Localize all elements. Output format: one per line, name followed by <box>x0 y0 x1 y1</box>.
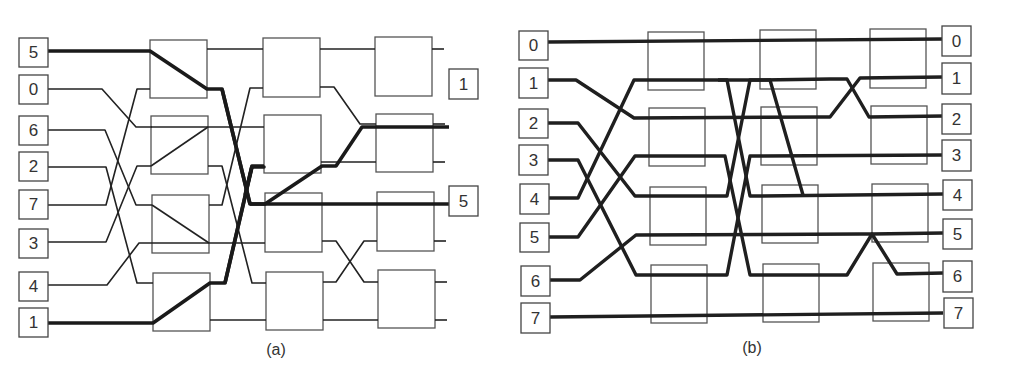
svg-text:6: 6 <box>953 267 962 286</box>
input-label-box: 3 <box>519 145 548 175</box>
input-label-box: 7 <box>521 303 550 333</box>
svg-text:7: 7 <box>29 195 38 214</box>
svg-text:5: 5 <box>530 228 539 247</box>
svg-text:4: 4 <box>530 190 539 209</box>
svg-text:5: 5 <box>459 192 468 211</box>
figure-a-inputs: 5 0 6 2 7 3 4 <box>19 38 48 337</box>
input-label-box: 5 <box>520 223 549 252</box>
svg-text:2: 2 <box>529 114 538 133</box>
switch-box <box>151 116 208 174</box>
output-label-box: 7 <box>944 298 973 328</box>
output-label-box: 1 <box>449 69 478 99</box>
svg-text:2: 2 <box>29 157 38 176</box>
switch-box <box>266 272 323 330</box>
output-label-box: 4 <box>943 180 972 210</box>
input-label-box: 4 <box>19 272 48 301</box>
input-label-box: 3 <box>19 229 48 258</box>
output-label-box: 3 <box>942 140 971 171</box>
output-label-box: 5 <box>943 219 972 249</box>
input-label-box: 1 <box>519 68 548 98</box>
figure-b-paths <box>548 39 943 317</box>
svg-text:1: 1 <box>529 74 538 93</box>
input-label-box: 2 <box>519 109 548 138</box>
svg-text:1: 1 <box>459 75 468 94</box>
figure-b-inputs: 0 1 2 3 4 5 6 <box>519 31 550 333</box>
svg-text:7: 7 <box>954 304 963 323</box>
figure-b-stage-3 <box>870 29 929 321</box>
svg-text:1: 1 <box>29 313 38 332</box>
svg-text:3: 3 <box>529 151 538 170</box>
svg-text:4: 4 <box>953 186 962 205</box>
input-label-box: 7 <box>19 190 48 219</box>
figure-a-outputs: 1 5 <box>449 69 478 216</box>
svg-text:0: 0 <box>529 36 538 55</box>
input-label-box: 5 <box>19 38 48 67</box>
svg-text:7: 7 <box>531 309 540 328</box>
omega-network-figure: 5 0 6 2 7 3 4 <box>0 0 1019 381</box>
svg-text:5: 5 <box>953 225 962 244</box>
input-label-box: 1 <box>19 308 48 337</box>
switch-box <box>375 37 432 96</box>
switch-box <box>376 114 433 172</box>
svg-text:1: 1 <box>952 69 961 88</box>
input-label-box: 0 <box>19 75 48 104</box>
switch-box <box>263 38 320 97</box>
figure-b-outputs: 0 1 2 3 4 5 6 <box>942 26 973 328</box>
svg-text:6: 6 <box>531 272 540 291</box>
figure-b-stage-2 <box>760 30 819 322</box>
output-label-box: 2 <box>942 104 971 134</box>
svg-text:0: 0 <box>952 32 961 51</box>
input-label-box: 0 <box>519 31 548 60</box>
figure-b-stage-1 <box>648 32 707 323</box>
svg-text:6: 6 <box>29 121 38 140</box>
figure-b-caption: (b) <box>742 339 762 356</box>
input-label-box: 2 <box>19 152 48 181</box>
figure-a: 5 0 6 2 7 3 4 <box>19 37 478 358</box>
switch-box <box>264 115 321 173</box>
output-label-box: 5 <box>449 186 478 216</box>
svg-text:3: 3 <box>952 146 961 165</box>
svg-text:3: 3 <box>29 234 38 253</box>
figure-a-caption: (a) <box>266 341 286 358</box>
output-label-box: 0 <box>942 26 971 56</box>
switch-box <box>377 192 434 251</box>
figure-a-stage-3 <box>375 37 435 328</box>
input-label-box: 6 <box>19 116 48 145</box>
input-label-box: 6 <box>521 266 550 296</box>
output-label-box: 1 <box>942 63 971 94</box>
svg-text:2: 2 <box>952 110 961 129</box>
input-label-box: 4 <box>520 184 549 214</box>
svg-text:5: 5 <box>29 43 38 62</box>
switch-box <box>265 193 322 252</box>
switch-box <box>378 270 435 328</box>
svg-text:0: 0 <box>29 80 38 99</box>
svg-text:4: 4 <box>29 277 38 296</box>
output-label-box: 6 <box>943 261 972 292</box>
figure-b: 0 1 2 3 4 5 6 <box>519 26 973 356</box>
